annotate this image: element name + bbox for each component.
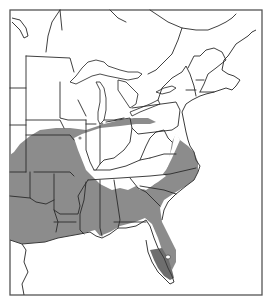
occurrence-dot xyxy=(101,123,104,126)
map-canvas xyxy=(0,0,270,304)
occurrence-dot xyxy=(78,136,81,139)
range-map xyxy=(0,0,270,304)
lake-okeechobee xyxy=(166,255,171,259)
